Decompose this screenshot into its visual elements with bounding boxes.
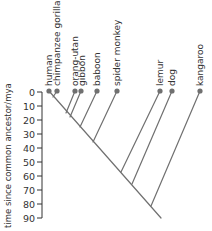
node-gibbon — [78, 88, 83, 93]
taxon-labels: human chimpanzee gorilla orang-utan gibb… — [44, 1, 205, 86]
node-baboon — [94, 88, 99, 93]
node-spider-monkey — [114, 88, 119, 93]
tick-label: 90 — [23, 213, 35, 224]
axis-label: time since common ancestor/mya — [3, 83, 13, 228]
tick-label: 80 — [23, 199, 35, 210]
tick-label: 70 — [23, 185, 35, 196]
phylogenetic-tree-figure: time since common ancestor/mya 0 10 20 3… — [0, 0, 212, 231]
node-kangaroo — [197, 88, 202, 93]
node-chimpanzee-gorilla — [54, 88, 59, 93]
taxon-label-lemur: lemur — [155, 59, 165, 86]
tick-label: 50 — [23, 157, 35, 168]
taxon-label-gibbon: gibbon — [77, 55, 87, 86]
taxon-label-spider-monkey: spider monkey — [112, 19, 122, 86]
node-dog — [169, 88, 174, 93]
tick-label: 60 — [23, 171, 35, 182]
taxon-label-kangaroo: kangaroo — [195, 43, 205, 86]
tick-label: 10 — [23, 101, 35, 112]
taxon-label-chimpanzee-gorilla: chimpanzee gorilla — [52, 1, 62, 86]
tree-nodes — [46, 88, 202, 93]
taxon-label-dog: dog — [167, 69, 177, 86]
tick-label: 0 — [29, 87, 35, 98]
tick-labels: 0 10 20 30 40 50 60 70 80 90 — [23, 87, 35, 224]
tree-branches — [49, 91, 200, 218]
node-lemur — [157, 88, 162, 93]
tick-label: 30 — [23, 129, 35, 140]
taxon-label-baboon: baboon — [92, 52, 102, 86]
tick-label: 20 — [23, 115, 35, 126]
tick-label: 40 — [23, 143, 35, 154]
node-human — [46, 88, 51, 93]
time-axis — [37, 92, 42, 218]
node-orang-utan — [72, 88, 77, 93]
